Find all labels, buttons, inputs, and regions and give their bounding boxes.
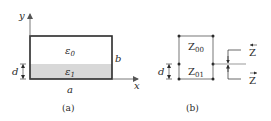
panel-b: Z00 Z01 d Z Z (b) [158, 35, 257, 114]
thickness-d-label-a: d [12, 66, 18, 77]
thickness-dimension-b [166, 64, 172, 79]
thickness-d-label-b: d [158, 66, 164, 77]
caption-b: (b) [186, 103, 199, 113]
panel-a: y x ε0 ε1 b a d (a) [12, 10, 140, 113]
width-a-label: a [67, 84, 73, 95]
right-looking-impedance: Z [249, 72, 257, 87]
z01-label: Z01 [188, 66, 204, 79]
y-axis-label: y [18, 10, 25, 21]
svg-text:Z: Z [249, 75, 256, 86]
epsilon-0-label: ε0 [65, 45, 75, 58]
impedance-bracket [228, 50, 241, 79]
diagram-canvas: y x ε0 ε1 b a d (a) [0, 0, 271, 121]
x-axis-label: x [134, 80, 140, 91]
z00-label: Z00 [188, 41, 204, 54]
left-looking-impedance: Z [249, 44, 257, 59]
caption-a: (a) [62, 103, 74, 113]
height-b-label: b [115, 53, 121, 64]
svg-text:Z: Z [249, 47, 256, 58]
thickness-dimension-a [20, 64, 26, 79]
